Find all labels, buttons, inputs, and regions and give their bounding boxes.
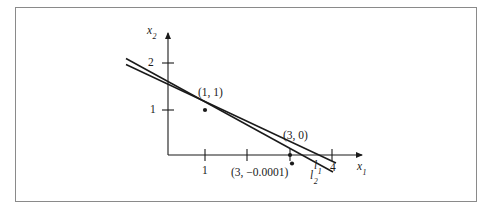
line-label-l2-subscript: 2 [314,177,318,186]
y-axis-label-subscript: 2 [153,32,157,41]
point-label-3-0: (3, 0) [283,130,308,142]
y-tick-label-2: 2 [148,57,154,69]
line-label-l2: l2 [310,170,317,184]
y-axis-label: x2 [147,25,156,39]
point-label-1-1: (1, 1) [198,87,223,99]
x-axis-label-subscript: 1 [363,168,367,177]
y-tick-label-1: 1 [150,104,156,116]
x-tick-label-1: 1 [202,165,208,177]
line-label-l2-text: l [310,169,313,181]
point-label-3-neg0001: (3, −0.0001) [231,167,288,179]
x-axis-label-text: x [357,160,362,172]
figure-root: x2 x1 2 1 1 4 (1, 1) (3, 0) (3, −0.0001)… [0,0,496,212]
x-axis-label: x1 [357,161,366,175]
y-axis-label-text: x [147,24,152,36]
line-label-l1-subscript: 1 [318,167,322,176]
x-tick-label-4: 4 [330,162,336,174]
